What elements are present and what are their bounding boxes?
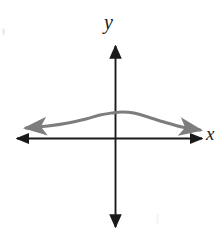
x-axis-label: x — [206, 124, 214, 143]
scan-speck-bottom-right-icon — [156, 214, 159, 224]
coordinate-plane — [0, 0, 224, 235]
y-axis-label: y — [104, 12, 113, 32]
graph-figure: y x — [0, 0, 224, 235]
polynomial-curve — [26, 112, 200, 130]
scan-speck-left-icon — [2, 28, 5, 35]
